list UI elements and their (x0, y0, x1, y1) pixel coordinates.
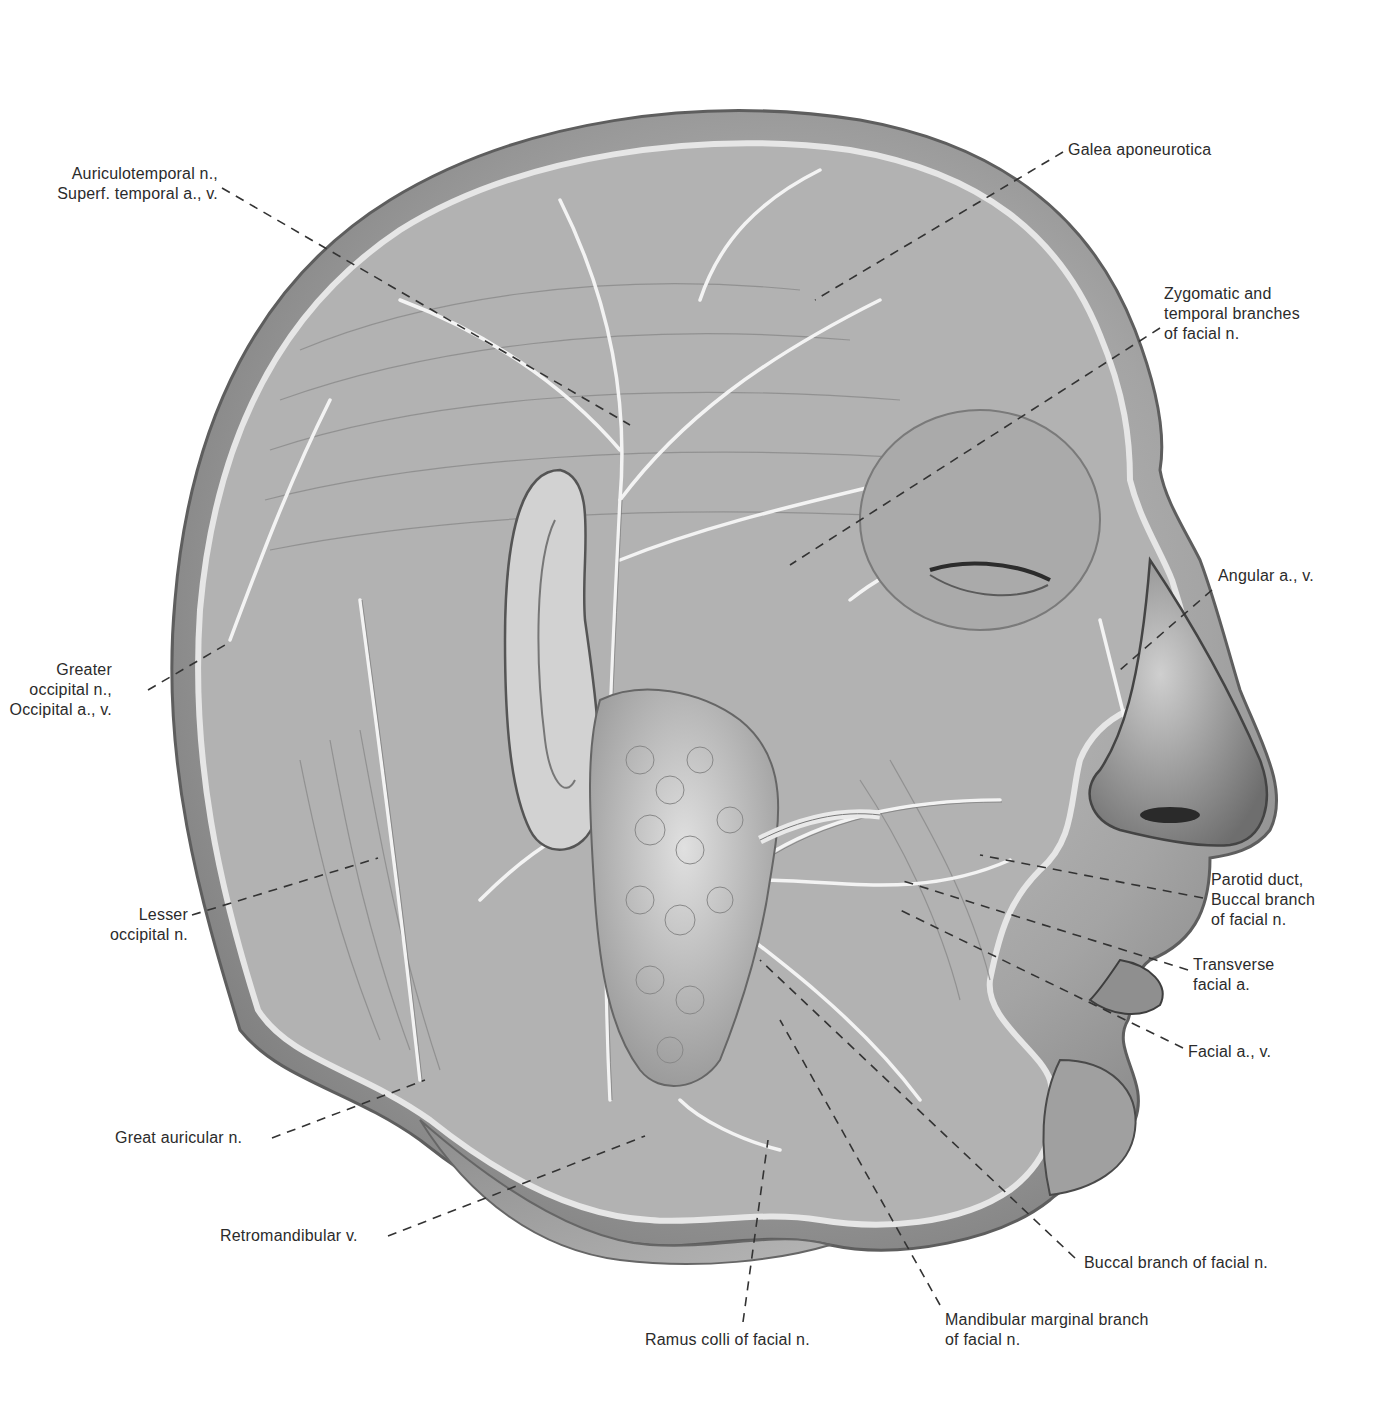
label-line: facial a. (1193, 975, 1274, 995)
label-line: of facial n. (1211, 910, 1315, 930)
label-line: Lesser (60, 905, 188, 925)
anatomical-illustration (0, 0, 1388, 1404)
label-line: Facial a., v. (1188, 1042, 1271, 1062)
label-line: Buccal branch (1211, 890, 1315, 910)
label-line: Superf. temporal a., v. (18, 184, 218, 204)
label-line: Angular a., v. (1218, 566, 1314, 586)
label-line: of facial n. (1164, 324, 1300, 344)
nostril (1140, 807, 1200, 823)
label-transverse-facial: Transverse facial a. (1193, 955, 1274, 995)
label-parotid-duct: Parotid duct, Buccal branch of facial n. (1211, 870, 1315, 930)
label-line: Galea aponeurotica (1068, 140, 1211, 160)
label-lesser-occipital: Lesser occipital n. (60, 905, 188, 945)
label-line: Retromandibular v. (220, 1226, 358, 1246)
label-line: occipital n., (0, 680, 112, 700)
label-angular: Angular a., v. (1218, 566, 1314, 586)
label-line: Parotid duct, (1211, 870, 1315, 890)
label-line: Ramus colli of facial n. (645, 1330, 810, 1350)
label-line: occipital n. (60, 925, 188, 945)
label-line: Buccal branch of facial n. (1084, 1253, 1268, 1273)
label-buccal-branch: Buccal branch of facial n. (1084, 1253, 1268, 1273)
label-line: temporal branches (1164, 304, 1300, 324)
label-zygomatic-temporal: Zygomatic and temporal branches of facia… (1164, 284, 1300, 344)
label-line: Greater (0, 660, 112, 680)
label-line: Occipital a., v. (0, 700, 112, 720)
label-ramus-colli: Ramus colli of facial n. (645, 1330, 810, 1350)
label-greater-occipital: Greater occipital n., Occipital a., v. (0, 660, 112, 720)
label-line: of facial n. (945, 1330, 1149, 1350)
label-line: Zygomatic and (1164, 284, 1300, 304)
label-auriculotemporal: Auriculotemporal n., Superf. temporal a.… (18, 164, 218, 204)
label-galea: Galea aponeurotica (1068, 140, 1211, 160)
label-line: Great auricular n. (115, 1128, 242, 1148)
label-line: Auriculotemporal n., (18, 164, 218, 184)
label-mandibular-marginal: Mandibular marginal branch of facial n. (945, 1310, 1149, 1350)
label-line: Mandibular marginal branch (945, 1310, 1149, 1330)
label-great-auricular: Great auricular n. (115, 1128, 242, 1148)
label-retromandibular: Retromandibular v. (220, 1226, 358, 1246)
label-facial-av: Facial a., v. (1188, 1042, 1271, 1062)
label-line: Transverse (1193, 955, 1274, 975)
